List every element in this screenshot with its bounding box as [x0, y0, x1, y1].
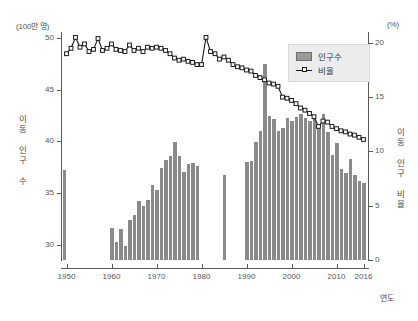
x-tick-label: 1950 — [50, 272, 84, 281]
line-marker — [290, 99, 294, 103]
line-marker — [276, 84, 280, 88]
line-marker — [272, 82, 276, 86]
x-tick-label: 2000 — [275, 272, 309, 281]
line-marker — [78, 45, 82, 49]
line-marker — [236, 65, 240, 69]
left-tick-label: 45 — [28, 85, 54, 94]
x-tick-label: 1970 — [140, 272, 174, 281]
left-tick — [57, 38, 61, 39]
line-marker — [249, 69, 253, 73]
right-tick-label: 0 — [375, 255, 401, 264]
line-marker — [209, 50, 213, 54]
line-marker — [146, 45, 150, 49]
line-marker — [119, 49, 123, 53]
right-tick — [369, 260, 373, 261]
line-marker — [245, 68, 249, 72]
line-marker — [123, 50, 127, 54]
x-tick-label: 2016 — [347, 272, 381, 281]
right-tick-label: 15 — [375, 92, 401, 101]
line-marker — [231, 63, 235, 67]
left-axis-title: 이동 인구 수 — [16, 115, 28, 187]
left-tick-label: 40 — [28, 136, 54, 145]
line-marker — [294, 102, 298, 106]
line-marker — [312, 115, 316, 119]
line-marker — [101, 49, 105, 53]
line-marker — [155, 45, 159, 49]
line-marker — [191, 61, 195, 65]
left-tick — [57, 245, 61, 246]
chart-legend: 인구수 비율 — [288, 44, 370, 82]
line-marker-icon — [296, 66, 312, 75]
x-axis-spine — [61, 268, 369, 269]
x-tick-label: 1980 — [185, 272, 219, 281]
line-marker — [348, 132, 352, 136]
line-marker — [200, 63, 204, 67]
x-tick — [67, 264, 68, 268]
line-marker — [69, 46, 73, 50]
line-marker — [87, 50, 91, 54]
line-marker — [303, 108, 307, 112]
line-marker — [258, 76, 262, 80]
right-tick — [369, 97, 373, 98]
bar-swatch-icon — [296, 52, 312, 61]
x-tick — [292, 264, 293, 268]
line-marker — [186, 59, 190, 63]
line-marker — [159, 46, 163, 50]
left-tick — [57, 90, 61, 91]
right-axis-title: 이동 인구 비율 — [394, 128, 406, 210]
line-marker — [83, 42, 87, 46]
line-marker — [222, 55, 226, 59]
line-marker — [65, 52, 69, 56]
line-marker — [357, 135, 361, 139]
right-tick — [369, 151, 373, 152]
line-marker — [335, 127, 339, 131]
line-marker — [299, 106, 303, 110]
legend-label-rate: 비율 — [318, 64, 334, 76]
line-marker — [240, 66, 244, 70]
line-marker — [150, 46, 154, 50]
line-marker — [330, 125, 334, 129]
line-marker — [267, 81, 271, 85]
right-tick-label: 5 — [375, 201, 401, 210]
migration-chart: (100만 명) (%) 이동 인구 수 이동 인구 비율 연도 3035404… — [0, 0, 418, 321]
left-tick — [57, 141, 61, 142]
left-tick-label: 30 — [28, 240, 54, 249]
line-marker — [254, 74, 258, 78]
line-marker — [195, 63, 199, 67]
line-marker — [317, 125, 321, 129]
right-tick — [369, 206, 373, 207]
line-marker — [105, 46, 109, 50]
x-tick — [157, 264, 158, 268]
line-marker — [141, 50, 145, 54]
line-marker — [218, 57, 222, 61]
line-marker — [137, 46, 141, 50]
line-marker — [164, 49, 168, 53]
line-marker — [213, 52, 217, 56]
line-marker — [281, 95, 285, 99]
x-tick-label: 1960 — [95, 272, 129, 281]
left-tick — [57, 193, 61, 194]
line-marker — [321, 119, 325, 123]
line-marker — [92, 47, 96, 51]
x-tick — [202, 264, 203, 268]
legend-item-rate: 비율 — [296, 64, 334, 76]
line-marker — [285, 96, 289, 100]
left-axis-unit: (100만 명) — [16, 20, 49, 31]
left-tick-label: 50 — [28, 33, 54, 42]
line-marker — [204, 36, 208, 40]
line-marker — [263, 78, 267, 82]
x-tick — [247, 264, 248, 268]
line-marker — [308, 112, 312, 116]
legend-item-population: 인구수 — [296, 50, 342, 62]
x-axis-title: 연도 — [380, 292, 394, 303]
line-marker — [177, 58, 181, 62]
right-tick-label: 10 — [375, 146, 401, 155]
line-marker — [362, 138, 366, 142]
legend-label-population: 인구수 — [318, 50, 342, 62]
right-tick-label: 20 — [375, 38, 401, 47]
x-tick — [337, 264, 338, 268]
line-marker — [114, 47, 118, 51]
line-marker — [173, 56, 177, 60]
line-marker — [132, 49, 136, 53]
line-marker — [326, 120, 330, 124]
